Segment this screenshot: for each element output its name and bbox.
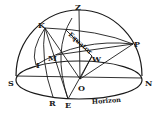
label-r: R [49,98,56,108]
label-k: K [38,20,46,30]
label-o: O [78,83,85,93]
label-e: E [65,100,71,110]
label-s: S [8,78,14,88]
label-w: W [91,54,102,64]
label-p: P [134,39,140,49]
label-n: N [145,78,152,88]
label-m: M [48,53,57,63]
label-z: Z [75,2,81,12]
arc-k-p [45,28,133,44]
label-horizon: Horizon [92,96,122,106]
celestial-sphere-diagram: Z K P M W I S O N R E Equator Horizon [0,0,158,113]
label-i: I [36,60,40,70]
